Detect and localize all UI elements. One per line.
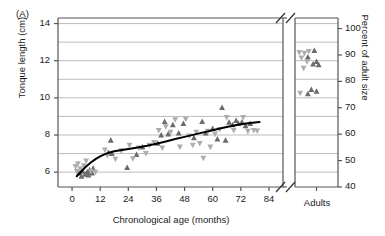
gridlines-group	[58, 24, 338, 173]
data-point-triangle-down	[304, 59, 310, 65]
data-point-triangle-up	[124, 164, 130, 170]
axis-break-group	[276, 13, 295, 192]
data-point-triangle-down	[299, 55, 305, 61]
data-point-triangle-down	[172, 117, 178, 123]
y-tick-label-right: 70	[345, 101, 356, 112]
data-point-triangle-down	[177, 145, 183, 151]
figure-panel-a: (A) Tonque length (cm) Percent of adult …	[0, 0, 385, 236]
data-point-triangle-up	[226, 119, 232, 125]
data-point-triangle-up	[199, 119, 205, 125]
data-point-triangle-up	[134, 151, 140, 157]
break-slash	[286, 13, 295, 23]
data-point-triangle-down	[190, 143, 196, 149]
data-point-triangle-up	[314, 88, 320, 94]
data-point-triangle-down	[163, 124, 169, 130]
data-point-triangle-down	[224, 115, 230, 121]
axis-ticks-group	[54, 24, 342, 191]
x-tick-label: 84	[255, 193, 283, 204]
y-tick-label-right: 100	[345, 22, 361, 33]
data-point-triangle-up	[219, 104, 225, 110]
y-tick-label-right: 60	[345, 127, 356, 138]
data-point-triangle-down	[212, 132, 218, 138]
data-point-triangle-down	[130, 156, 136, 162]
data-point-triangle-up	[308, 86, 314, 92]
data-point-triangle-down	[102, 147, 108, 153]
break-slash	[286, 182, 295, 192]
data-point-triangle-down	[112, 157, 118, 163]
data-point-triangle-down	[197, 141, 203, 147]
data-point-triangle-down	[200, 156, 206, 162]
y-tick-label-left: 14	[0, 17, 50, 28]
y-tick-label-left: 10	[0, 91, 50, 102]
y-tick-label-right: 80	[345, 74, 356, 85]
y-tick-label-right: 40	[345, 180, 356, 191]
x-tick-label: 24	[114, 193, 142, 204]
y-tick-label-left: 8	[0, 128, 50, 139]
x-tick-label: 48	[171, 193, 199, 204]
data-point-triangle-up	[223, 137, 229, 143]
data-point-triangle-down	[297, 91, 303, 97]
data-markers-group	[73, 47, 322, 178]
data-point-triangle-up	[214, 136, 220, 142]
data-point-triangle-down	[296, 50, 302, 56]
data-point-triangle-up	[108, 137, 114, 143]
data-point-triangle-down	[254, 128, 260, 134]
data-point-triangle-down	[231, 128, 237, 134]
data-point-triangle-down	[159, 146, 165, 152]
plot-frame-group	[58, 18, 338, 187]
x-tick-label: 60	[199, 193, 227, 204]
x-tick-label: 72	[227, 193, 255, 204]
x-tick-label: 0	[58, 193, 86, 204]
data-point-triangle-down	[245, 129, 251, 135]
data-point-triangle-up	[162, 119, 168, 125]
data-point-triangle-up	[176, 130, 182, 136]
data-point-triangle-up	[170, 122, 176, 128]
y-tick-label-right: 50	[345, 154, 356, 165]
data-point-triangle-up	[305, 54, 311, 60]
data-point-triangle-up	[311, 47, 317, 53]
x-tick-label: 36	[142, 193, 170, 204]
data-point-triangle-down	[207, 145, 213, 151]
y-tick-label-left: 6	[0, 165, 50, 176]
y-tick-label-left: 12	[0, 54, 50, 65]
data-point-triangle-down	[240, 115, 246, 121]
data-point-triangle-down	[301, 66, 307, 72]
y-tick-label-right: 90	[345, 48, 356, 59]
x-tick-label: 12	[86, 193, 114, 204]
